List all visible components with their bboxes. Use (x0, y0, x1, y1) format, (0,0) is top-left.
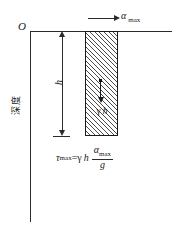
right-arrow-icon (88, 18, 116, 19)
h-variable: h (103, 106, 108, 116)
h-factor: h (84, 152, 89, 164)
down-arrow-icon (98, 97, 104, 103)
origin-label: O (18, 20, 26, 32)
alpha-numerator-subscript: max (99, 150, 111, 158)
shear-stress-diagram: O 深度 αmax γh h τmax=γh αmax g (0, 0, 179, 231)
gamma-h-label: γh (90, 106, 114, 117)
right-arrow-head-icon (114, 15, 120, 21)
gamma-symbol: γ (97, 106, 101, 116)
alpha-symbol: α (121, 10, 126, 21)
height-label: h (53, 71, 64, 95)
soil-column-hatched (85, 31, 118, 136)
height-arrow-up-icon (59, 31, 65, 37)
shear-stress-equation: τmax=γh αmax g (56, 145, 113, 171)
height-bottom-tick (53, 136, 70, 137)
depth-axis-label: 深度 (11, 85, 21, 125)
alpha-max-label: αmax (121, 10, 140, 26)
down-arrow-shaft-icon (100, 82, 101, 98)
alpha-subscript: max (128, 16, 140, 24)
tau-subscript: max (60, 152, 72, 164)
depth-axis (30, 31, 31, 222)
fraction-numerator: αmax (92, 145, 113, 159)
alpha-over-g-fraction: αmax g (92, 145, 113, 171)
fraction-denominator: g (98, 160, 107, 171)
gamma-factor: γ (77, 152, 81, 164)
